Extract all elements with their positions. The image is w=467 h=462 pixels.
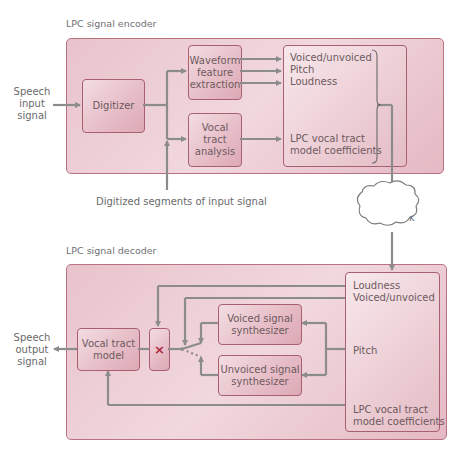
network-cloud-icon (357, 181, 418, 225)
switch-dotted-arm (182, 349, 201, 357)
connector-lines (0, 0, 467, 462)
brace-icon (372, 50, 381, 163)
